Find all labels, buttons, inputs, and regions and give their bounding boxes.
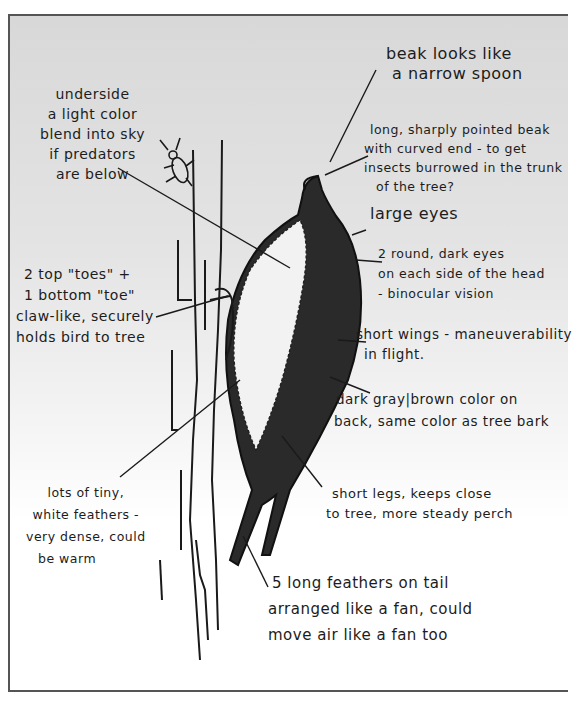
annotation-line: are below [40, 164, 145, 184]
annotation-line: a narrow spoon [386, 64, 523, 84]
annotation-line: - binocular vision [378, 284, 545, 304]
annotation-beak-detail: long, sharply pointed beak with curved e… [364, 120, 562, 196]
annotation-eyes-heading: large eyes [370, 204, 458, 224]
annotation-line: on each side of the head [378, 264, 545, 284]
annotation-line: beak looks like [386, 44, 523, 64]
annotation-line: be warm [26, 548, 146, 570]
annotation-line: claw-like, securely [16, 306, 154, 327]
annotation-line: large eyes [370, 204, 458, 224]
annotation-feathers: lots of tiny, white feathers - very dens… [26, 482, 146, 570]
annotation-line: move air like a fan too [268, 622, 473, 648]
annotation-line: very dense, could [26, 526, 146, 548]
annotation-wings: short wings - maneuverability in flight. [356, 324, 572, 364]
annotation-toes: 2 top "toes" + 1 bottom "toe" claw-like,… [16, 264, 154, 348]
annotation-line: a light color [40, 104, 145, 124]
annotation-line: if predators [40, 144, 145, 164]
annotation-line: holds bird to tree [16, 327, 154, 348]
annotation-line: short legs, keeps close [326, 484, 513, 504]
annotation-line: insects burrowed in the trunk [364, 158, 562, 177]
annotation-line: 1 bottom "toe" [16, 285, 154, 306]
annotation-line: with curved end - to get [364, 139, 562, 158]
tree-trunk-illustration [160, 140, 222, 660]
annotation-line: long, sharply pointed beak [364, 120, 562, 139]
annotation-line: to tree, more steady perch [326, 504, 513, 524]
annotation-line: 2 round, dark eyes [378, 244, 545, 264]
annotation-line: arranged like a fan, could [268, 596, 473, 622]
annotation-line: underside [40, 84, 145, 104]
annotation-line: blend into sky [40, 124, 145, 144]
annotation-line: back, same color as tree bark [334, 410, 549, 432]
annotation-line: of the tree? [364, 177, 562, 196]
annotation-back-color: dark gray|brown color on back, same colo… [334, 388, 549, 432]
annotation-line: short wings - maneuverability [356, 324, 572, 344]
annotation-line: lots of tiny, [26, 482, 146, 504]
annotation-eyes-detail: 2 round, dark eyes on each side of the h… [378, 244, 545, 304]
annotation-underside: underside a light color blend into sky i… [40, 84, 145, 184]
beetle-icon [160, 138, 194, 186]
annotation-line: white feathers - [26, 504, 146, 526]
annotation-beak-heading: beak looks like a narrow spoon [386, 44, 523, 84]
annotation-line: dark gray|brown color on [334, 388, 549, 410]
annotation-legs: short legs, keeps close to tree, more st… [326, 484, 513, 524]
annotation-line: 2 top "toes" + [16, 264, 154, 285]
annotation-line: in flight. [356, 344, 572, 364]
annotation-tail: 5 long feathers on tail arranged like a … [268, 570, 473, 648]
annotation-line: 5 long feathers on tail [268, 570, 473, 596]
